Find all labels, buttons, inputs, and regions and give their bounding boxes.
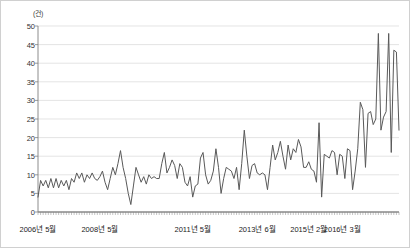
x-axis-tick-label: 2015년 2월	[290, 223, 327, 234]
x-axis-tick-label: 2008년 5월	[81, 223, 118, 234]
x-axis-tick-label: 2013년 6월	[239, 223, 276, 234]
gridlines	[38, 26, 399, 212]
x-axis-tick-label: 2016년 3월	[324, 223, 361, 234]
x-axis-minor-ticks	[35, 26, 399, 215]
x-axis-tick-labels: 2006년 5월2008년 5월2011년 5월2013년 6월2015년 2월…	[1, 223, 410, 239]
x-axis-tick-label: 2011년 5월	[175, 223, 211, 234]
plot-area	[1, 1, 410, 248]
line-chart-figure: (건) 05101520253035404550 2006년 5월2008년 5…	[0, 0, 410, 248]
x-axis-tick-label: 2006년 5월	[20, 223, 57, 234]
